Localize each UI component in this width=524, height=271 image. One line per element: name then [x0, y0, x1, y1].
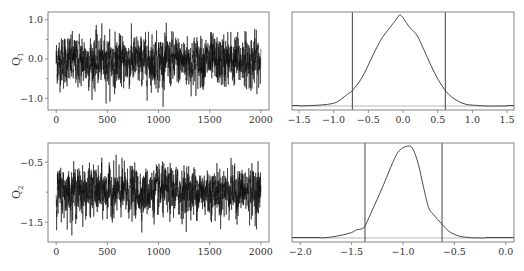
- y-tick-label: −1.0: [20, 93, 43, 104]
- trace-plot-q2: −0.5−1.50500100015002000: [20, 143, 273, 257]
- trace-line: [56, 23, 261, 107]
- x-tick-label: −1.0: [322, 114, 345, 125]
- y-tick-label: 1.0: [28, 14, 43, 25]
- x-tick-label: 1000: [146, 114, 170, 125]
- x-tick-label: 0: [53, 114, 59, 125]
- y-tick-label: −1.5: [20, 217, 43, 228]
- x-tick-label: 0.0: [395, 114, 410, 125]
- y-axis-label-q2: Q2: [10, 186, 25, 200]
- x-tick-label: −1.5: [287, 114, 310, 125]
- density-plot-q2: −2.0−1.5−1.0−0.50.0: [289, 143, 514, 257]
- x-tick-label: −1.5: [340, 246, 363, 257]
- plot-frame: [292, 12, 514, 110]
- x-tick-label: 500: [98, 246, 116, 257]
- x-tick-label: 0: [53, 246, 59, 257]
- x-tick-label: −0.5: [357, 114, 380, 125]
- x-tick-label: 1500: [198, 246, 222, 257]
- density-curve: [299, 15, 507, 106]
- x-tick-label: 1500: [198, 114, 222, 125]
- x-tick-label: −1.0: [391, 246, 414, 257]
- density-curve: [321, 146, 485, 238]
- x-tick-label: −2.0: [289, 246, 312, 257]
- plot-frame: [292, 143, 514, 242]
- trace-plot-q1: −1.00.01.00500100015002000: [20, 12, 273, 125]
- x-tick-label: 2000: [249, 246, 273, 257]
- x-tick-label: 1.5: [500, 114, 515, 125]
- x-tick-label: −0.5: [443, 246, 466, 257]
- density-plot-q1: −1.5−1.0−0.50.00.51.01.5: [287, 12, 514, 125]
- x-tick-label: 2000: [249, 114, 273, 125]
- x-tick-label: 1.0: [465, 114, 480, 125]
- x-tick-label: 1000: [146, 246, 170, 257]
- x-tick-label: 500: [98, 114, 116, 125]
- x-tick-label: 0.0: [498, 246, 513, 257]
- x-tick-label: 0.5: [430, 114, 445, 125]
- trace-line: [56, 155, 261, 236]
- y-tick-label: 0.0: [28, 53, 43, 64]
- mcmc-figure: −1.00.01.00500100015002000 −1.5−1.0−0.50…: [0, 0, 524, 271]
- y-tick-label: −0.5: [20, 157, 43, 168]
- y-axis-label-q1: Q1: [10, 53, 25, 67]
